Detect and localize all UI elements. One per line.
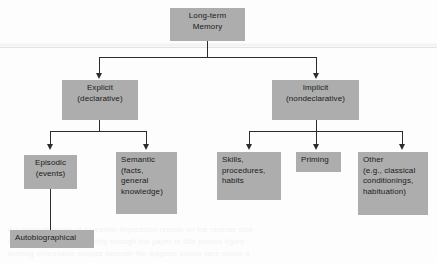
node-episodic[interactable]: Episodic (events) xyxy=(24,155,77,189)
node-implicit[interactable]: Implicit (nondeclarative) xyxy=(272,80,359,120)
node-long-term-memory[interactable]: Long-term Memory xyxy=(170,8,245,41)
edge-implicit-to-other xyxy=(402,131,403,145)
figure-canvas: the residual traces of an earlier impres… xyxy=(0,0,437,263)
edge-episodic-to-autobiographical xyxy=(50,189,51,230)
node-line: Long-term xyxy=(175,11,240,22)
node-line: (e.g., classical xyxy=(363,166,423,177)
edge-implicit-bus xyxy=(249,131,403,132)
node-line: Explicit xyxy=(67,83,133,94)
edge-explicit-to-semantic xyxy=(146,131,147,145)
node-line: habits xyxy=(222,176,276,187)
node-line: Memory xyxy=(175,22,240,33)
edge-explicit-bus xyxy=(50,131,147,132)
arrowhead-semantic xyxy=(143,144,149,150)
node-skills[interactable]: Skills, procedures, habits xyxy=(217,152,281,200)
edge-implicit-to-priming xyxy=(316,131,317,145)
node-line: knowledge) xyxy=(121,187,172,198)
arrowhead-other xyxy=(399,144,405,150)
arrowhead-priming xyxy=(313,144,319,150)
edge-root-bus xyxy=(99,57,317,58)
node-explicit[interactable]: Explicit (declarative) xyxy=(62,80,138,120)
node-line: Semantic xyxy=(121,155,172,166)
node-autobiographical[interactable]: Autobiographical xyxy=(10,230,94,248)
node-other[interactable]: Other (e.g., classical conditionings, ha… xyxy=(358,152,428,215)
node-line: conditionings, xyxy=(363,176,423,187)
edge-root-stem xyxy=(207,41,208,58)
node-line: habituation) xyxy=(363,187,423,198)
node-line: Priming xyxy=(301,155,336,166)
node-semantic[interactable]: Semantic (facts, general knowledge) xyxy=(116,152,177,214)
node-line: (events) xyxy=(29,169,72,180)
arrowhead-implicit xyxy=(313,73,319,79)
edge-root-to-implicit xyxy=(316,57,317,74)
ghost-text-line-3: forming unreadable shapes beneath the di… xyxy=(8,250,428,257)
edge-root-to-explicit xyxy=(99,57,100,74)
arrowhead-skills xyxy=(246,144,252,150)
node-line: Autobiographical xyxy=(15,233,89,244)
node-line: Other xyxy=(363,155,423,166)
node-line: (facts, xyxy=(121,166,172,177)
node-line: (nondeclarative) xyxy=(277,94,354,105)
edge-explicit-to-episodic xyxy=(50,131,51,145)
node-line: Episodic xyxy=(29,158,72,169)
page-divider-line xyxy=(0,47,437,48)
edge-implicit-to-skills xyxy=(249,131,250,145)
node-line: Skills, xyxy=(222,155,276,166)
arrowhead-episodic xyxy=(47,144,53,150)
node-line: Implicit xyxy=(277,83,354,94)
node-priming[interactable]: Priming xyxy=(296,152,341,172)
node-line: general xyxy=(121,176,172,187)
arrowhead-explicit xyxy=(96,73,102,79)
node-line: (declarative) xyxy=(67,94,133,105)
node-line: procedures, xyxy=(222,166,276,177)
